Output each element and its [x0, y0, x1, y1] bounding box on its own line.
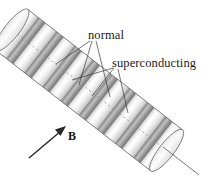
- magnetic-field-arrow: [29, 126, 66, 158]
- cylinder-axis-line-right: [163, 147, 199, 175]
- figure-container: normal superconducting B: [0, 0, 205, 181]
- label-superconducting: superconducting: [112, 56, 197, 70]
- field-arrow-shaft: [29, 131, 61, 158]
- label-normal: normal: [88, 28, 124, 42]
- superconductor-cylinder-diagram: normal superconducting B: [0, 0, 205, 181]
- label-magnetic-field: B: [68, 129, 76, 143]
